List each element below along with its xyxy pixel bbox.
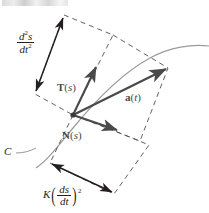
curve-C-path [36,45,209,168]
curve-label-leader [16,148,36,153]
fraction-denominator: dt2 [17,43,34,55]
N-paren-close: ) [78,129,82,141]
origin-point [70,112,75,117]
fraction-ds-dt: ds dt [57,184,71,207]
fraction-d2s-dt2: d2s dt2 [17,30,34,54]
numerator-s: s [28,30,32,42]
left-paren: ( [52,185,56,206]
label-curve-C: C [4,146,11,157]
label-unit-tangent-vector: T(s) [57,82,76,93]
right-paren: ) [72,185,76,206]
symbol-N: N [62,129,70,141]
normal-exponent: 2 [78,187,81,194]
vector-N [73,115,117,130]
fraction-numerator: d2s [17,30,34,43]
label-unit-normal-vector: N(s) [62,130,82,141]
denominator-exponent: 2 [28,42,31,49]
normal-coefficient-K: K [43,188,50,200]
fraction-denominator-dt: dt [57,196,71,207]
a-paren-close: ) [137,91,141,103]
label-acceleration-vector: a(t) [125,92,141,103]
figure-root: d2s dt2 K( ds dt )2 T(s) N(s) a(t) C [0,0,209,213]
vector-a [73,69,166,115]
vector-T [73,67,96,115]
T-paren-close: ) [72,81,76,93]
denominator-dt: dt [20,42,29,54]
label-tangential-component: d2s dt2 [17,30,34,54]
label-normal-component: K( ds dt )2 [43,184,81,207]
dashed-resultant-box [73,35,168,141]
